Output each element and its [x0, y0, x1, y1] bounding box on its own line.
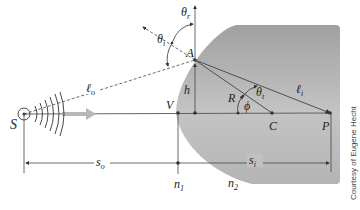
image-credit: Courtesy of Eugene Hecht — [349, 106, 358, 200]
s-o-subscript: o — [101, 162, 105, 171]
label-h: h — [184, 84, 190, 96]
label-R: R — [228, 92, 235, 104]
label-s-o: so — [96, 156, 105, 171]
n1-subscript: 1 — [180, 184, 184, 193]
label-S: S — [10, 118, 17, 132]
label-n1: n1 — [174, 178, 184, 193]
label-P: P — [322, 120, 329, 132]
label-C: C — [269, 120, 277, 132]
theta-r-arc — [172, 24, 193, 43]
s-i-subscript: i — [254, 160, 256, 169]
label-theta-t: θt — [256, 86, 264, 101]
point-phi-vertex — [237, 112, 240, 115]
label-V: V — [166, 99, 173, 111]
refraction-diagram: S A V h R C P θr θi θt ϕ ℓo ℓi so si n1 … — [0, 0, 360, 210]
label-n2: n2 — [228, 177, 238, 192]
label-A: A — [186, 46, 194, 59]
n2-subscript: 2 — [234, 183, 238, 192]
point-h-foot — [193, 111, 197, 115]
label-l-o: ℓo — [86, 82, 95, 97]
theta-i-arc — [167, 43, 172, 66]
label-theta-r: θr — [181, 6, 190, 21]
label-l-i: ℓi — [296, 83, 303, 98]
label-s-i: si — [249, 154, 256, 169]
l-o-subscript: o — [91, 88, 95, 97]
theta-i-subscript: i — [163, 39, 165, 48]
point-C — [270, 111, 274, 115]
theta-r-subscript: r — [187, 12, 190, 21]
theta-t-subscript: t — [262, 92, 264, 101]
propagation-arrowhead — [86, 108, 96, 120]
l-i-subscript: i — [301, 89, 303, 98]
label-theta-i: θi — [157, 33, 165, 48]
label-phi: ϕ — [244, 100, 250, 112]
